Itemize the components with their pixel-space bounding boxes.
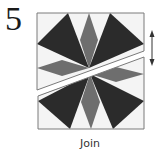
- double-vertical-arrow-icon: [150, 30, 155, 66]
- step-caption: Join: [0, 137, 164, 150]
- quilt-block-diagram: [0, 0, 164, 158]
